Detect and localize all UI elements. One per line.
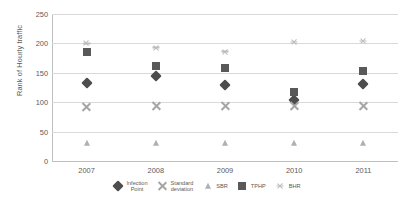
data-point-sbr-2008 <box>153 140 159 146</box>
legend-item-bhr[interactable]: BHR <box>275 181 301 192</box>
x-tick-label-2011: 2011 <box>341 166 385 175</box>
y-tick-label-200: 200 <box>22 39 48 48</box>
gridline-0 <box>52 161 398 162</box>
x-tick-label-2009: 2009 <box>203 166 247 175</box>
x-tick-label-2008: 2008 <box>134 166 178 175</box>
data-point-bhr-2007 <box>83 40 90 47</box>
y-tick-label-0: 0 <box>22 157 48 166</box>
data-point-tphp-2010 <box>290 88 298 96</box>
legend-item-tphp[interactable]: TPHP <box>237 181 266 192</box>
cross-marker-icon <box>157 181 168 192</box>
y-tick-label-50: 50 <box>22 128 48 137</box>
y-tick-label-150: 150 <box>22 69 48 78</box>
gridline-150 <box>52 73 398 74</box>
plot-area <box>52 14 398 161</box>
data-point-tphp-2011 <box>359 67 367 75</box>
gridline-200 <box>52 43 398 44</box>
legend-item-sbr[interactable]: SBR <box>202 181 228 192</box>
legend-item-infection-point[interactable]: Infection Point <box>112 180 147 192</box>
x-tick-label-2010: 2010 <box>272 166 316 175</box>
x-tick-label-2007: 2007 <box>65 166 109 175</box>
data-point-bhr-2011 <box>360 38 367 45</box>
gridline-50 <box>52 132 398 133</box>
legend-swatch-cross <box>157 181 168 192</box>
legend-label: Infection Point <box>126 180 147 192</box>
data-point-standard-deviation-2008 <box>150 101 161 112</box>
legend-label: TPHP <box>251 183 266 189</box>
legend-item-standard-deviation[interactable]: Standard deviation <box>157 180 194 192</box>
legend-swatch-diamond <box>112 181 123 192</box>
data-point-infection-point-2011 <box>358 78 369 89</box>
data-point-standard-deviation-2010 <box>289 101 300 112</box>
legend-label: Standard deviation <box>171 180 194 192</box>
chart-legend: Infection PointStandard deviationSBRTPHP… <box>0 180 413 192</box>
legend-label: SBR <box>216 183 228 189</box>
y-axis-title: Rank of Hourly traffic <box>15 0 24 126</box>
triangle-marker-icon <box>205 183 211 189</box>
data-point-sbr-2009 <box>222 139 228 145</box>
data-point-bhr-2008 <box>152 44 159 51</box>
data-point-bhr-2009 <box>222 48 229 55</box>
data-point-infection-point-2009 <box>219 79 230 90</box>
data-point-sbr-2011 <box>360 139 366 145</box>
diamond-marker-icon <box>112 181 123 192</box>
data-point-standard-deviation-2009 <box>220 101 231 112</box>
square-marker-icon <box>238 182 246 190</box>
legend-swatch-triangle <box>202 181 213 192</box>
data-point-standard-deviation-2007 <box>81 101 92 112</box>
data-point-sbr-2007 <box>84 140 90 146</box>
data-point-infection-point-2007 <box>81 78 92 89</box>
y-tick-label-250: 250 <box>22 10 48 19</box>
data-point-tphp-2007 <box>83 48 91 56</box>
y-tick-label-100: 100 <box>22 98 48 107</box>
data-point-sbr-2010 <box>291 139 297 145</box>
data-point-tphp-2009 <box>221 64 229 72</box>
data-point-tphp-2008 <box>152 62 160 70</box>
legend-swatch-square <box>237 181 248 192</box>
star-marker-icon <box>277 183 284 190</box>
scatter-chart: Rank of Hourly traffic 050100150200250 2… <box>0 0 413 204</box>
data-point-standard-deviation-2011 <box>358 101 369 112</box>
gridline-250 <box>52 14 398 15</box>
legend-label: BHR <box>289 183 301 189</box>
legend-swatch-star <box>275 181 286 192</box>
data-point-bhr-2010 <box>291 39 298 46</box>
